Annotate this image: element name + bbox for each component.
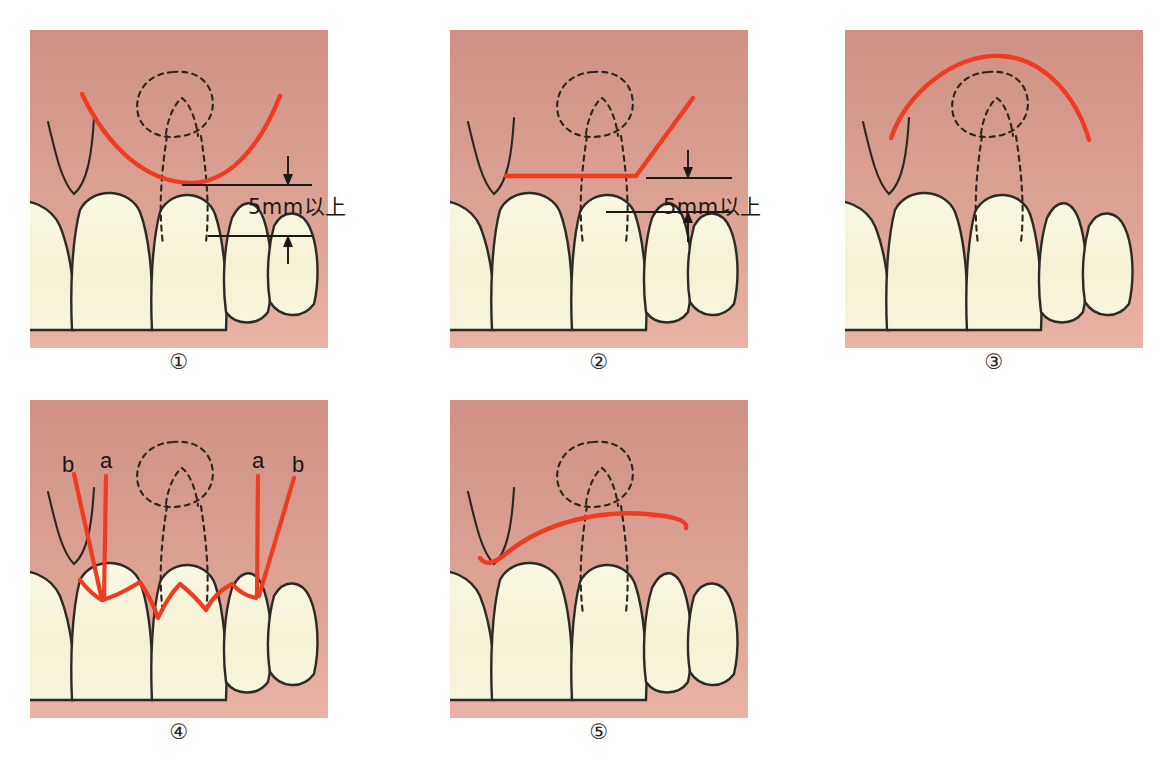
label-a-left: a <box>100 448 113 473</box>
label-b-left: b <box>62 452 74 477</box>
dimension-label-5mm-panel-1: 5mm以上 <box>248 190 347 220</box>
panel-1-illustration <box>30 30 328 348</box>
panel-2-illustration <box>450 30 748 348</box>
dental-flap-incision-figure: ① 5mm以上 <box>0 0 1169 764</box>
release-incision-a-right <box>257 476 258 596</box>
panel-caption: ② <box>450 352 748 373</box>
panel-1-curved-submarginal-incision: ① <box>30 30 328 348</box>
panel-3-semilunar-incision: ③ <box>845 30 1143 348</box>
panel-4-sulcular-incision-with-vertical-releases: b a a b ④ <box>30 400 328 718</box>
label-b-right: b <box>292 452 304 477</box>
panel-caption: ④ <box>30 722 328 743</box>
panel-2-horizontal-with-oblique-release-incision: ② <box>450 30 748 348</box>
panel-caption: ③ <box>845 352 1143 373</box>
panel-5-shallow-curved-incision: ⑤ <box>450 400 748 718</box>
label-a-right: a <box>252 448 265 473</box>
panel-caption: ⑤ <box>450 722 748 743</box>
dimension-label-5mm-panel-2: 5mm以上 <box>663 190 762 220</box>
panel-3-illustration <box>845 30 1143 348</box>
release-incision-a-left <box>104 476 106 600</box>
panel-4-illustration: b a a b <box>30 400 328 718</box>
panel-caption: ① <box>30 352 328 373</box>
panel-5-illustration <box>450 400 748 718</box>
